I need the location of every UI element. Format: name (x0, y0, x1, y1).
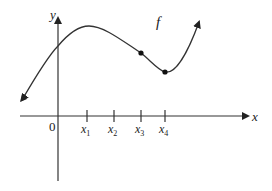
function-graph: f y x 0 x1 x2 x3 x4 (0, 0, 272, 191)
point-x3 (138, 50, 143, 55)
svg-text:x3: x3 (134, 122, 144, 138)
x-axis-label: x (251, 109, 258, 124)
function-label: f (156, 14, 162, 30)
function-curve (22, 22, 199, 100)
svg-text:x4: x4 (158, 122, 168, 138)
left-arrow-icon (20, 94, 27, 102)
svg-text:x2: x2 (107, 122, 117, 138)
y-axis-label: y (48, 7, 56, 22)
svg-text:x1: x1 (80, 122, 90, 138)
tick-labels: x1 x2 x3 x4 (80, 122, 168, 138)
graph-canvas: f y x 0 x1 x2 x3 x4 (0, 0, 272, 191)
point-x4 (162, 69, 167, 74)
origin-label: 0 (49, 119, 56, 134)
